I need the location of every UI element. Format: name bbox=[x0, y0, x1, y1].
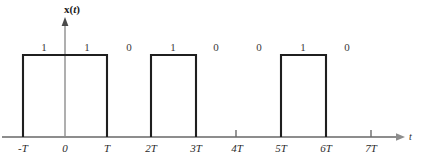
y-axis-label-paren-close: ) bbox=[76, 3, 80, 15]
waveform-plot bbox=[0, 0, 428, 164]
x-tick-label-4T: 4T bbox=[231, 143, 243, 154]
bit-label-7: 0 bbox=[344, 42, 350, 53]
y-axis-group bbox=[62, 17, 69, 137]
x-tick-label-7T: 7T bbox=[365, 143, 377, 154]
x-tick-label-2T: 2T bbox=[145, 143, 157, 154]
bit-label-3: 1 bbox=[170, 42, 176, 53]
x-tick-label-0: 0 bbox=[62, 143, 68, 154]
pulse-bar-3 bbox=[281, 55, 326, 137]
x-tick-label-3T: 3T bbox=[190, 143, 202, 154]
x-axis-label: t bbox=[409, 132, 412, 142]
bit-label-5: 0 bbox=[256, 42, 262, 53]
y-axis-label: x(t) bbox=[64, 4, 80, 15]
bit-label-2: 0 bbox=[126, 42, 132, 53]
x-axis-arrow-head bbox=[396, 133, 405, 141]
pulse-bar-2 bbox=[151, 55, 196, 137]
bit-label-1: 1 bbox=[84, 42, 90, 53]
x-tick-label-6T: 6T bbox=[320, 143, 332, 154]
x-tick-label-minus-T: -T bbox=[18, 143, 28, 154]
x-axis-group bbox=[2, 133, 405, 141]
bit-label-6: 1 bbox=[300, 42, 306, 53]
bit-label-4: 0 bbox=[213, 42, 219, 53]
bit-label-0: 1 bbox=[41, 42, 47, 53]
x-tick-label-5T: 5T bbox=[275, 143, 287, 154]
x-tick-label-T: T bbox=[104, 143, 110, 154]
y-axis-arrow-head bbox=[62, 17, 69, 26]
signal-waveform-figure: x(t) t 1 1 0 1 0 0 1 0 -T 0 T 2T 3T 4T 5… bbox=[0, 0, 428, 164]
